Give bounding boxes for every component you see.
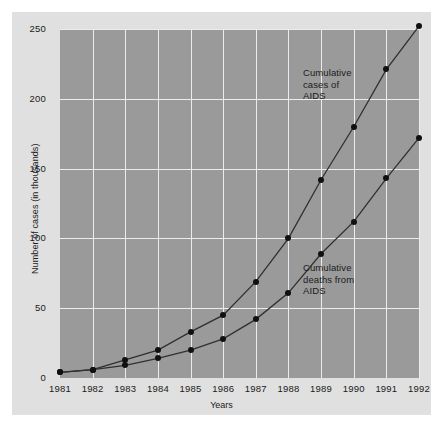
y-axis-tick-label: 50	[0, 302, 46, 313]
data-point-marker	[318, 177, 324, 183]
data-point-marker	[90, 367, 96, 373]
data-point-marker	[253, 279, 259, 285]
x-axis-tick-label: 1992	[399, 383, 439, 394]
series-lines	[60, 29, 427, 386]
data-point-marker	[318, 251, 324, 257]
x-axis-label: Years	[0, 400, 443, 410]
y-axis-tick-label: 150	[0, 163, 46, 174]
data-point-marker	[155, 347, 161, 353]
series-annotation-1: Cumulative cases of AIDS	[303, 67, 352, 102]
y-axis-tick-label: 100	[0, 232, 46, 243]
series-line-1	[60, 26, 419, 372]
y-axis-tick-label: 0	[0, 372, 46, 383]
data-point-marker	[351, 124, 357, 130]
data-point-marker	[188, 347, 194, 353]
data-point-marker	[351, 219, 357, 225]
series-line-2	[60, 138, 419, 373]
data-point-marker	[416, 135, 422, 141]
data-point-marker	[188, 329, 194, 335]
y-axis-tick-label: 250	[0, 23, 46, 34]
series-annotation-2: Cumulative deaths from AIDS	[303, 262, 354, 297]
plot-area: Cumulative cases of AIDSCumulative death…	[60, 29, 419, 378]
chart-figure: Number of cases (in thousands) 050100150…	[0, 0, 443, 427]
y-axis-tick-label: 200	[0, 93, 46, 104]
